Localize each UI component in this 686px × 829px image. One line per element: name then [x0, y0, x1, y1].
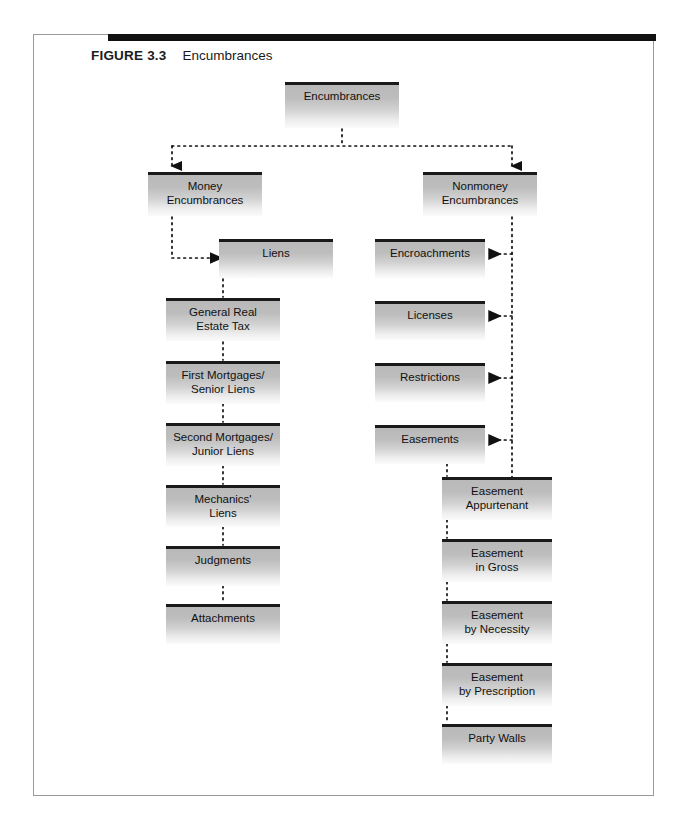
node-encroachments[interactable]: Encroachments	[375, 239, 485, 278]
node-label: Nonmoney Encumbrances	[423, 180, 537, 207]
node-label: Encumbrances	[285, 90, 399, 104]
node-easements[interactable]: Easements	[375, 425, 485, 464]
node-first-mortgages-senior-liens[interactable]: First Mortgages/ Senior Liens	[166, 361, 280, 404]
node-easement-in-gross[interactable]: Easement in Gross	[442, 539, 552, 582]
node-label: Restrictions	[375, 371, 485, 385]
node-liens[interactable]: Liens	[219, 239, 333, 278]
node-label: Mechanics' Liens	[166, 493, 280, 520]
node-restrictions[interactable]: Restrictions	[375, 363, 485, 402]
node-easement-by-prescription[interactable]: Easement by Prescription	[442, 663, 552, 706]
node-label: Encroachments	[375, 247, 485, 261]
node-licenses[interactable]: Licenses	[375, 301, 485, 340]
node-label: Second Mortgages/ Junior Liens	[166, 431, 280, 458]
node-label: Easements	[375, 433, 485, 447]
node-label: Attachments	[166, 612, 280, 626]
node-party-walls[interactable]: Party Walls	[442, 724, 552, 764]
node-label: Judgments	[166, 554, 280, 568]
node-second-mortgages-junior-liens[interactable]: Second Mortgages/ Junior Liens	[166, 423, 280, 466]
node-label: Easement by Necessity	[442, 609, 552, 636]
node-judgments[interactable]: Judgments	[166, 546, 280, 586]
node-nonmoney-encumbrances[interactable]: Nonmoney Encumbrances	[423, 172, 537, 216]
node-label: First Mortgages/ Senior Liens	[166, 369, 280, 396]
node-label: General Real Estate Tax	[166, 306, 280, 333]
node-label: Easement Appurtenant	[442, 485, 552, 512]
figure-page: FIGURE 3.3Encumbrances	[0, 0, 686, 829]
node-attachments[interactable]: Attachments	[166, 604, 280, 644]
node-label: Easement by Prescription	[442, 671, 552, 698]
node-label: Party Walls	[442, 732, 552, 746]
node-label: Liens	[219, 247, 333, 261]
node-encumbrances[interactable]: Encumbrances	[285, 82, 399, 128]
node-easement-by-necessity[interactable]: Easement by Necessity	[442, 601, 552, 644]
encumbrances-flowchart: Encumbrances Money Encumbrances Nonmoney…	[0, 0, 686, 829]
node-label: Licenses	[375, 309, 485, 323]
node-general-real-estate-tax[interactable]: General Real Estate Tax	[166, 298, 280, 341]
node-mechanics-liens[interactable]: Mechanics' Liens	[166, 485, 280, 527]
node-label: Money Encumbrances	[148, 180, 262, 207]
node-easement-appurtenant[interactable]: Easement Appurtenant	[442, 477, 552, 520]
node-money-encumbrances[interactable]: Money Encumbrances	[148, 172, 262, 216]
node-label: Easement in Gross	[442, 547, 552, 574]
